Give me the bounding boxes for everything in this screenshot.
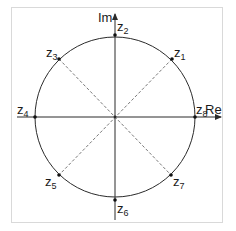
origin-point bbox=[114, 116, 117, 119]
imag-axis-label: Im bbox=[98, 10, 112, 25]
point-z5 bbox=[57, 173, 61, 177]
diagram-frame bbox=[12, 8, 223, 223]
point-z4 bbox=[33, 115, 37, 119]
roots-of-unity-diagram: Im Re z1 z2 z3 z4 z5 z6 z7 z8 bbox=[0, 0, 236, 231]
point-z3 bbox=[57, 57, 61, 61]
